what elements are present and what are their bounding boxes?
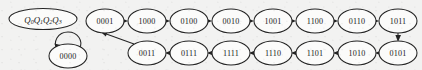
node-label: 1110 (265, 49, 281, 58)
node-0101[interactable]: 0101 (379, 41, 417, 65)
node-label: 1101 (307, 49, 324, 58)
node-0010[interactable]: 0010 (212, 9, 250, 33)
node-1110[interactable]: 1110 (254, 41, 292, 65)
node-0111[interactable]: 0111 (170, 41, 208, 65)
edge-segment (105, 34, 134, 45)
node-label: 1011 (390, 17, 407, 26)
node-0110[interactable]: 0110 (338, 9, 376, 33)
node-1100[interactable]: 1100 (296, 9, 334, 33)
node-0100[interactable]: 0100 (170, 9, 208, 33)
node-1101[interactable]: 1101 (296, 41, 334, 65)
node-label: 0110 (349, 17, 366, 26)
node-label: 1111 (223, 49, 239, 58)
node-label: 0001 (97, 17, 114, 26)
node-label: 1100 (307, 17, 324, 26)
node-label: 1001 (265, 17, 282, 26)
node-label: 0101 (390, 49, 407, 58)
node-label: 0011 (139, 49, 156, 58)
node-label: 0000 (60, 52, 77, 61)
node-label: 0010 (223, 17, 240, 26)
node-1010[interactable]: 1010 (338, 41, 376, 65)
node-label: 1010 (349, 49, 366, 58)
state-variable-legend: Q0Q1Q2Q3 (9, 9, 77, 30)
node-label: 1000 (139, 17, 156, 26)
node-0000[interactable]: 0000 (49, 44, 87, 68)
node-1011[interactable]: 1011 (379, 9, 417, 33)
node-0011[interactable]: 0011 (128, 41, 166, 65)
diagram-canvas: Q0Q1Q2Q3 (0, 0, 422, 70)
state-transition-diagram: Q0Q1Q2Q3 (0, 0, 422, 70)
node-1000[interactable]: 1000 (128, 9, 166, 33)
node-1111[interactable]: 1111 (212, 41, 250, 65)
node-1001[interactable]: 1001 (254, 9, 292, 33)
node-0001[interactable]: 0001 (86, 9, 124, 33)
legend-label: Q0Q1Q2Q3 (24, 15, 61, 25)
node-label: 0111 (181, 49, 197, 58)
node-label: 0100 (181, 17, 198, 26)
